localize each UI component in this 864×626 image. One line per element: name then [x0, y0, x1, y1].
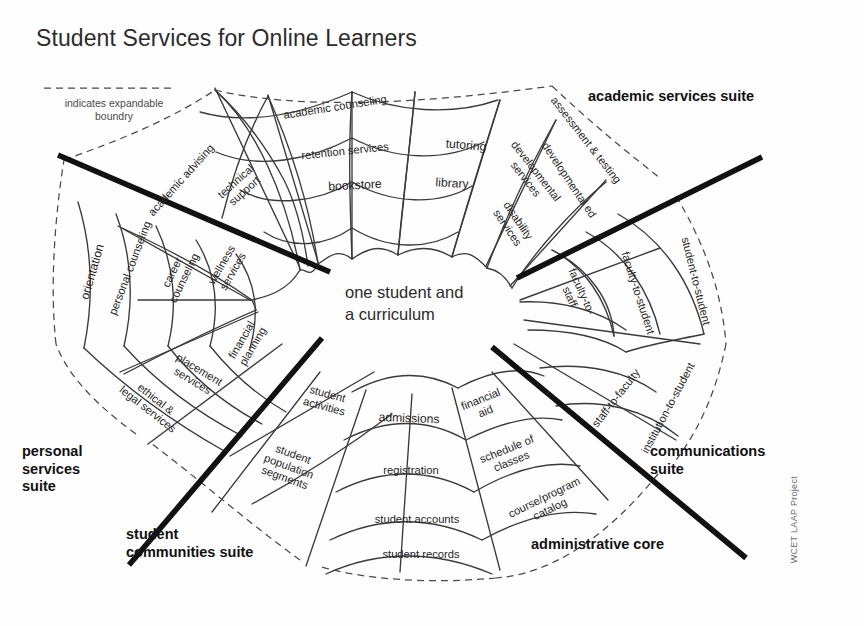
- web-cell-library[interactable]: library: [435, 176, 469, 191]
- spoke: [492, 372, 608, 500]
- diagram-canvas: Student Services for Online Learners ind…: [0, 0, 864, 626]
- page-title: Student Services for Online Learners: [36, 26, 417, 52]
- web-arc: [466, 418, 562, 440]
- web-arc: [352, 228, 458, 245]
- web-arc: [398, 248, 452, 257]
- web-arc: [344, 424, 466, 441]
- web-arc: [487, 268, 512, 288]
- boundary-dash: [53, 160, 64, 344]
- suite-label-student-communities: student communities suite: [126, 526, 253, 561]
- suite-label-personal: personal services suite: [22, 443, 82, 496]
- web-cell-student-records[interactable]: student records: [382, 548, 459, 561]
- legend-label: indicates expandable boundry: [46, 97, 182, 123]
- suite-dividers: [58, 155, 762, 565]
- web-arc: [252, 270, 300, 300]
- web-cell-registration[interactable]: registration: [383, 464, 438, 477]
- web-arc: [230, 372, 374, 456]
- web-cell-admissions[interactable]: admissions: [378, 411, 439, 427]
- web-arc: [352, 248, 398, 259]
- web-cell-bookstore[interactable]: bookstore: [328, 178, 382, 194]
- web-cell-student-accounts[interactable]: student accounts: [375, 513, 460, 526]
- boundary-dash: [318, 566, 496, 581]
- spoke: [306, 390, 366, 566]
- web-arc: [352, 376, 458, 392]
- web-arc: [528, 330, 626, 352]
- credit-label: WCET LAAP Project: [789, 476, 799, 563]
- suite-label-academic: academic services suite: [588, 88, 754, 106]
- center-hub-label: one student and a curriculum: [345, 281, 463, 326]
- divider-academic-communications: [517, 157, 762, 278]
- web-arc: [318, 254, 352, 264]
- suite-label-administrative: administrative core: [531, 536, 664, 554]
- suite-label-communications: communications suite: [650, 443, 765, 478]
- web-arc: [452, 254, 487, 268]
- web-arc: [398, 92, 415, 255]
